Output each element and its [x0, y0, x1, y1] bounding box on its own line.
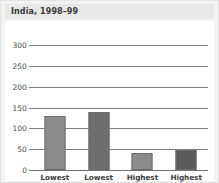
x-axis-label-line: Highest	[162, 173, 210, 182]
y-tick-label-0: 0	[22, 166, 27, 175]
chart-figure: India, 1998–99 050100150200250300 Lowest…	[0, 0, 219, 183]
y-tick-label-50: 50	[17, 145, 27, 154]
page-title: India, 1998–99	[11, 7, 78, 16]
x-axis-label-line: Lowest	[75, 173, 123, 182]
x-axis-label-line: urban	[31, 182, 79, 183]
x-axis-label-line: rural	[162, 182, 210, 183]
x-axis-label-line: Lowest	[31, 173, 79, 182]
x-axis-labels: LowesturbanLowestruralHighesturbanHighes…	[33, 21, 208, 181]
y-tick-label-150: 150	[12, 103, 27, 112]
x-axis-label-highest-urban: Highesturban	[118, 173, 166, 183]
x-axis-label-highest-rural: Highestrural	[162, 173, 210, 183]
y-tick-label-300: 300	[12, 41, 27, 50]
x-axis-label-line: rural	[75, 182, 123, 183]
x-axis-label-line: urban	[118, 182, 166, 183]
x-axis-label-lowest-urban: Lowesturban	[31, 173, 79, 183]
chart-title-bar: India, 1998–99	[5, 4, 214, 19]
plot-card: 050100150200250300 LowesturbanLowestrura…	[5, 21, 214, 181]
y-tick-label-250: 250	[12, 61, 27, 70]
y-tick-label-200: 200	[12, 82, 27, 91]
x-axis-label-line: Highest	[118, 173, 166, 182]
x-axis-label-lowest-rural: Lowestrural	[75, 173, 123, 183]
plot-area: 050100150200250300 LowesturbanLowestrura…	[5, 21, 214, 181]
y-tick-label-100: 100	[12, 124, 27, 133]
